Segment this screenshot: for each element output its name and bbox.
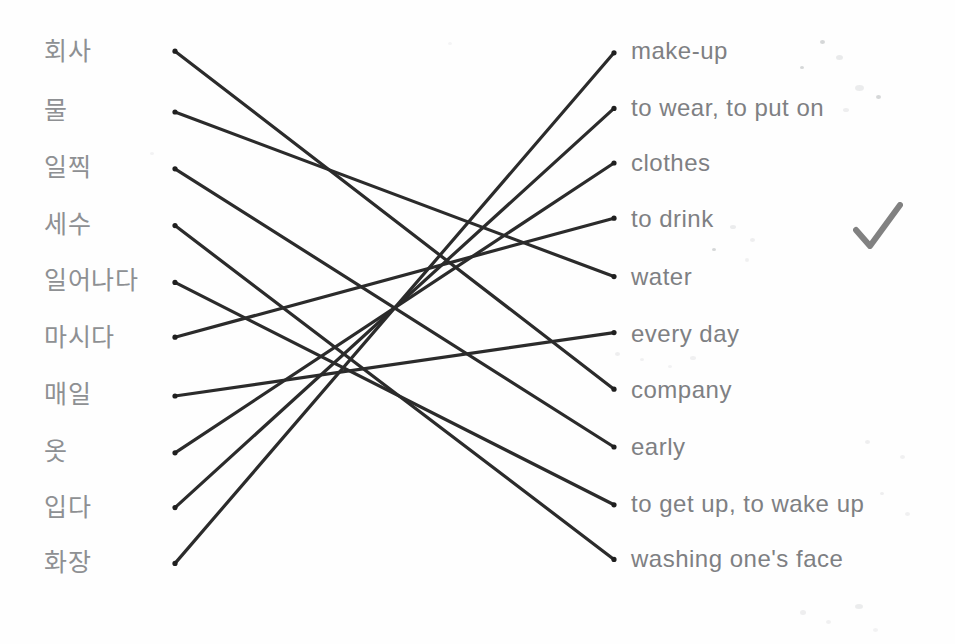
right-term-4[interactable]: to drink: [631, 207, 714, 231]
connector-line[interactable]: [175, 226, 614, 560]
left-term-4[interactable]: 세수: [44, 212, 91, 237]
left-term-8[interactable]: 옷: [44, 439, 68, 464]
connector-endpoint-dot: [172, 166, 177, 171]
left-term-9[interactable]: 입다: [44, 495, 91, 520]
scan-smudge: [876, 95, 881, 99]
scan-smudge: [750, 238, 755, 242]
scan-smudge: [820, 40, 825, 44]
connector-endpoint-dot: [611, 557, 616, 562]
connector-line[interactable]: [175, 51, 614, 389]
scan-smudge: [836, 55, 843, 60]
left-term-1[interactable]: 회사: [44, 39, 91, 64]
scan-smudge: [640, 358, 644, 361]
connector-endpoint-dot: [611, 106, 616, 111]
scan-smudge: [865, 440, 870, 444]
scan-smudge: [826, 620, 831, 624]
scan-smudge: [730, 225, 736, 229]
scan-smudge: [873, 628, 878, 632]
connector-line[interactable]: [175, 163, 614, 453]
right-term-7[interactable]: company: [631, 378, 732, 402]
left-term-7[interactable]: 매일: [44, 382, 91, 407]
connector-endpoint-dot: [172, 280, 177, 285]
worksheet-sheet: 회사 물 일찍 세수 일어나다 마시다 매일 옷 입다 화장 make-up t…: [0, 0, 955, 644]
connector-endpoint-dot: [611, 502, 616, 507]
connector-line[interactable]: [175, 282, 614, 504]
connector-line[interactable]: [175, 53, 614, 564]
connector-endpoint-dot: [611, 50, 616, 55]
scan-smudge: [855, 85, 864, 91]
left-term-10[interactable]: 화장: [44, 550, 91, 575]
left-term-3[interactable]: 일찍: [44, 155, 91, 180]
connector-line[interactable]: [175, 169, 614, 447]
right-term-3[interactable]: clothes: [631, 151, 711, 175]
right-term-6[interactable]: every day: [631, 322, 740, 346]
left-term-6[interactable]: 마시다: [44, 325, 115, 350]
scan-smudge: [900, 455, 905, 459]
scan-smudge: [843, 108, 849, 112]
connector-endpoint-dot: [611, 330, 616, 335]
right-term-5[interactable]: water: [631, 265, 692, 289]
right-term-10[interactable]: washing one's face: [631, 547, 843, 571]
connector-endpoint-dot: [172, 223, 177, 228]
scan-smudge: [690, 356, 696, 360]
scan-smudge: [800, 66, 804, 69]
right-term-1[interactable]: make-up: [631, 39, 728, 63]
connector-endpoint-dot: [172, 49, 177, 54]
connector-line[interactable]: [175, 218, 614, 337]
scan-smudge: [880, 492, 884, 495]
connector-endpoint-dot: [611, 387, 616, 392]
connector-endpoint-dot: [611, 160, 616, 165]
right-term-2[interactable]: to wear, to put on: [631, 96, 824, 120]
scan-smudge: [712, 248, 716, 251]
connector-endpoint-dot: [172, 561, 177, 566]
scan-smudge: [855, 604, 863, 609]
connector-endpoint-dot: [172, 505, 177, 510]
scan-smudge: [905, 512, 910, 516]
checkmark-icon: [851, 200, 911, 260]
connector-endpoint-dot: [611, 274, 616, 279]
connector-endpoint-dot: [172, 109, 177, 114]
scan-smudge: [615, 352, 620, 356]
scan-smudge: [448, 42, 452, 45]
connector-endpoint-dot: [172, 450, 177, 455]
connector-line[interactable]: [175, 333, 614, 396]
scan-smudge: [668, 365, 672, 368]
connector-endpoint-dot: [172, 335, 177, 340]
scan-smudge: [745, 258, 749, 262]
connector-endpoint-dot: [611, 216, 616, 221]
connector-line[interactable]: [175, 108, 614, 507]
scan-smudge: [800, 610, 806, 615]
right-term-9[interactable]: to get up, to wake up: [631, 492, 864, 516]
scan-smudge: [150, 152, 154, 155]
connector-endpoint-dot: [611, 444, 616, 449]
connector-line[interactable]: [175, 112, 614, 277]
right-term-8[interactable]: early: [631, 435, 686, 459]
left-term-2[interactable]: 물: [44, 98, 68, 123]
left-term-5[interactable]: 일어나다: [44, 268, 138, 293]
connector-endpoint-dot: [172, 393, 177, 398]
